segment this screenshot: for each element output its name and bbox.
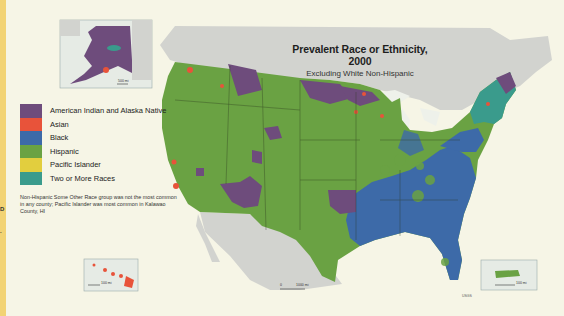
map-credit: USGS — [462, 294, 472, 298]
legend-label: Pacific Islander — [50, 160, 101, 169]
puerto-rico-scale-label: 100 mi — [516, 281, 527, 285]
alaska-scale-label: 500 mi — [118, 79, 129, 83]
legend-item-american-indian: American Indian and Alaska Native — [20, 104, 166, 118]
map-subtitle: Excluding White Non-Hispanic — [280, 69, 440, 78]
legend-label: American Indian and Alaska Native — [50, 106, 166, 115]
legend-swatch — [20, 131, 42, 145]
legend-item-pacific-islander: Pacific Islander — [20, 158, 166, 172]
main-scale-label: 1000 mi — [296, 283, 308, 287]
legend-item-asian: Asian — [20, 118, 166, 132]
legend-swatch — [20, 158, 42, 172]
map-legend: American Indian and Alaska Native Asian … — [20, 104, 166, 185]
legend-note: Non-Hispanic Some Other Race group was n… — [20, 194, 180, 216]
legend-item-black: Black — [20, 131, 166, 145]
legend-swatch — [20, 172, 42, 186]
legend-label: Black — [50, 133, 68, 142]
legend-item-two-or-more: Two or More Races — [20, 172, 166, 186]
legend-swatch — [20, 145, 42, 159]
legend-swatch — [20, 118, 42, 132]
legend-label: Asian — [50, 120, 69, 129]
legend-label: Two or More Races — [50, 174, 115, 183]
hawaii-scale-label: 100 mi — [101, 281, 112, 285]
legend-item-hispanic: Hispanic — [20, 145, 166, 159]
legend-swatch — [20, 104, 42, 118]
legend-label: Hispanic — [50, 147, 79, 156]
map-title: Prevalent Race or Ethnicity, 2000 — [280, 43, 440, 67]
map-title-block: Prevalent Race or Ethnicity, 2000 Exclud… — [280, 43, 440, 78]
main-scale-zero: 0 — [280, 283, 282, 287]
